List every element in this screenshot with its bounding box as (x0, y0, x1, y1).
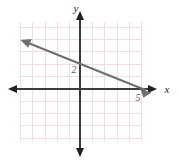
arrow-left-icon (8, 85, 17, 93)
y-axis (76, 11, 84, 157)
coordinate-plane-svg: y x 2 5 (0, 0, 179, 161)
x-axis-label: x (164, 83, 170, 95)
y-intercept-label: 2 (72, 64, 77, 75)
y-axis-label: y (73, 2, 79, 14)
x-intercept-label: 5 (136, 92, 141, 103)
arrow-down-icon (76, 148, 84, 157)
coordinate-plane-figure: y x 2 5 (0, 0, 179, 161)
